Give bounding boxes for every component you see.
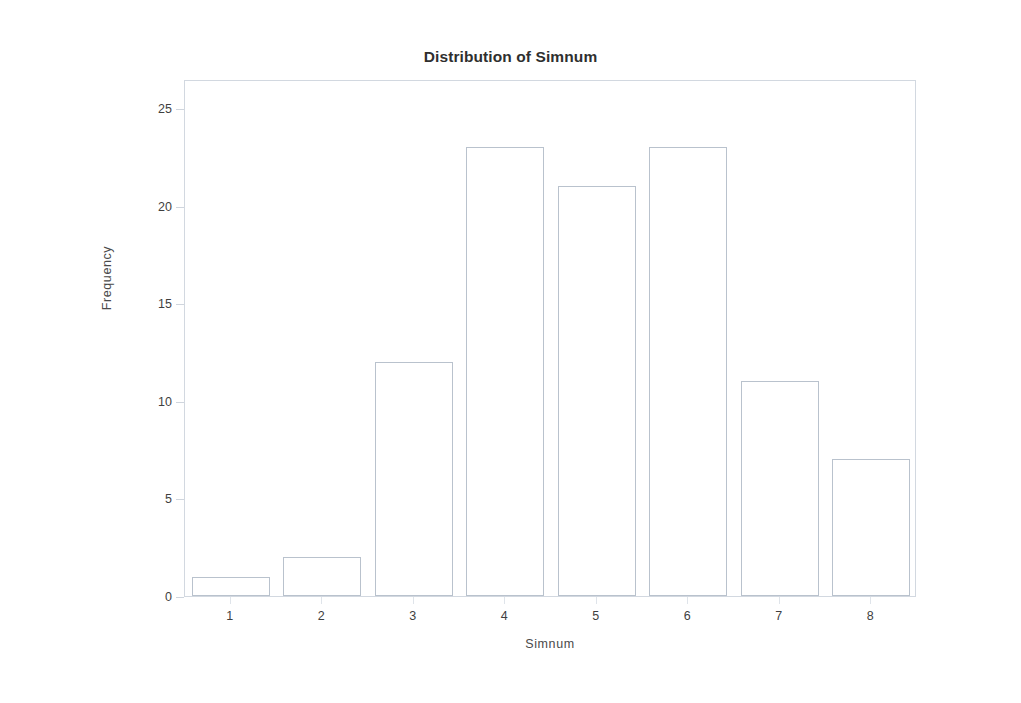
y-tick-mark [176, 304, 184, 305]
y-tick-label: 20 [132, 200, 172, 214]
y-axis-tick-marks [176, 0, 184, 703]
x-tick-mark [230, 597, 231, 604]
x-tick-mark [870, 597, 871, 604]
bar-1 [192, 577, 270, 597]
y-tick-label: 0 [132, 590, 172, 604]
x-tick-mark [596, 597, 597, 604]
bar-8 [832, 459, 910, 596]
y-tick-label: 15 [132, 297, 172, 311]
y-tick-label: 5 [132, 492, 172, 506]
bar-3 [375, 362, 453, 596]
x-tick-label: 7 [759, 609, 799, 623]
bar-5 [558, 186, 636, 596]
y-tick-mark [176, 597, 184, 598]
x-tick-mark [779, 597, 780, 604]
x-tick-mark [504, 597, 505, 604]
plot-frame [184, 80, 916, 597]
x-tick-label: 4 [484, 609, 524, 623]
y-tick-label: 10 [132, 395, 172, 409]
bar-4 [466, 147, 544, 596]
x-tick-label: 1 [210, 609, 250, 623]
x-axis-tick-marks [184, 597, 916, 604]
x-tick-label: 5 [576, 609, 616, 623]
histogram-figure: Distribution of Simnum Frequency 0510152… [0, 0, 1021, 703]
x-axis-title: Simnum [184, 637, 916, 651]
y-tick-mark [176, 402, 184, 403]
bar-2 [283, 557, 361, 596]
x-tick-mark [413, 597, 414, 604]
x-tick-label: 3 [393, 609, 433, 623]
y-tick-mark [176, 499, 184, 500]
y-tick-label: 25 [132, 102, 172, 116]
x-axis-tick-labels: 12345678 [184, 609, 916, 629]
y-tick-mark [176, 109, 184, 110]
bar-6 [649, 147, 727, 596]
plot-area [185, 81, 915, 596]
x-tick-label: 6 [667, 609, 707, 623]
y-tick-mark [176, 207, 184, 208]
bar-7 [741, 381, 819, 596]
x-tick-label: 2 [301, 609, 341, 623]
y-axis-title: Frequency [100, 208, 120, 348]
y-axis-tick-labels: 0510152025 [130, 0, 172, 703]
x-tick-mark [321, 597, 322, 604]
x-tick-label: 8 [850, 609, 890, 623]
x-tick-mark [687, 597, 688, 604]
